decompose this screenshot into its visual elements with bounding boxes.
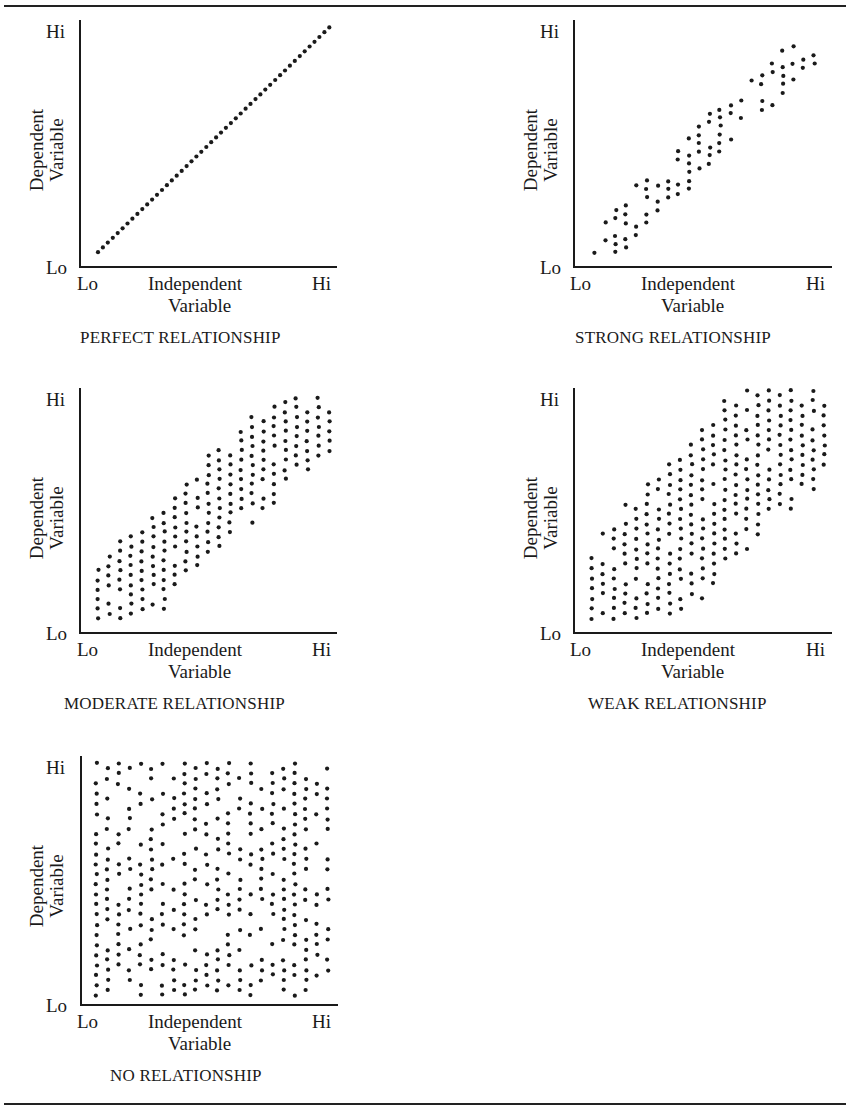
data-point <box>216 847 220 851</box>
data-point <box>238 878 242 882</box>
data-point <box>173 534 177 538</box>
data-point <box>778 502 782 506</box>
data-point <box>734 483 738 487</box>
data-point <box>217 535 221 539</box>
data-point <box>205 530 209 534</box>
data-point <box>634 517 638 521</box>
data-point <box>195 563 199 567</box>
data-point <box>292 802 296 806</box>
data-point <box>249 832 253 836</box>
x-axis-label-line1: Independent <box>148 640 242 659</box>
data-point <box>590 586 594 590</box>
data-point <box>105 867 109 871</box>
data-point <box>150 928 154 932</box>
data-point <box>314 903 318 907</box>
data-point <box>250 521 254 525</box>
data-point <box>304 777 308 781</box>
data-point <box>697 166 701 170</box>
data-point <box>216 837 220 841</box>
data-point <box>228 473 232 477</box>
data-point <box>129 592 133 596</box>
data-point <box>293 994 297 998</box>
data-point <box>723 438 727 442</box>
data-point <box>298 54 302 58</box>
data-point <box>722 508 726 512</box>
data-point <box>162 540 166 544</box>
data-point <box>261 497 265 501</box>
data-point <box>701 547 705 551</box>
data-point <box>248 933 252 937</box>
data-point <box>745 408 749 412</box>
data-point <box>128 766 132 770</box>
data-point <box>106 602 110 606</box>
data-point <box>788 468 792 472</box>
data-point <box>603 238 607 242</box>
data-point <box>96 568 100 572</box>
data-point <box>689 443 693 447</box>
data-point <box>193 868 197 872</box>
data-point <box>744 428 748 432</box>
data-point <box>700 478 704 482</box>
data-point <box>216 817 220 821</box>
plot-area <box>423 0 846 360</box>
data-point <box>304 988 308 992</box>
y-tick-lo: Lo <box>540 624 561 643</box>
data-point <box>150 867 154 871</box>
data-point <box>172 988 176 992</box>
data-point <box>657 477 661 481</box>
data-point <box>678 458 682 462</box>
data-point <box>175 174 179 178</box>
data-point <box>766 488 770 492</box>
data-point <box>140 597 144 601</box>
data-point <box>293 59 297 63</box>
data-point <box>151 534 155 538</box>
data-point <box>261 467 265 471</box>
data-point <box>161 923 165 927</box>
data-point <box>196 505 200 509</box>
panel-title: NO RELATIONSHIP <box>110 1066 262 1086</box>
x-tick-hi: Hi <box>312 640 331 659</box>
data-point <box>745 497 749 501</box>
data-point <box>801 443 805 447</box>
data-point <box>214 135 218 139</box>
data-point <box>723 537 727 541</box>
data-point <box>646 602 650 606</box>
data-point <box>183 492 187 496</box>
data-point <box>779 453 783 457</box>
data-point <box>139 983 143 987</box>
data-point <box>94 994 98 998</box>
data-point <box>94 853 98 857</box>
data-point <box>690 581 694 585</box>
data-point <box>711 581 715 585</box>
data-point <box>216 797 220 801</box>
data-point <box>105 777 109 781</box>
data-point <box>163 597 167 601</box>
data-point <box>634 577 638 581</box>
data-point <box>760 73 764 77</box>
data-point <box>634 616 638 620</box>
data-point <box>810 427 814 431</box>
data-point <box>734 472 738 476</box>
data-point <box>161 587 165 591</box>
data-point <box>204 973 208 977</box>
data-point <box>679 577 683 581</box>
data-point <box>206 550 210 554</box>
data-point <box>127 857 131 861</box>
data-point <box>172 776 176 780</box>
data-point <box>282 908 286 912</box>
data-point <box>204 145 208 149</box>
data-point <box>151 564 155 568</box>
data-point <box>284 448 288 452</box>
data-point <box>612 596 616 600</box>
data-point <box>687 136 691 140</box>
data-point <box>162 578 166 582</box>
data-point <box>708 153 712 157</box>
data-point <box>204 963 208 967</box>
data-point <box>700 437 704 441</box>
data-point <box>601 582 605 586</box>
data-point <box>303 797 307 801</box>
data-point <box>734 493 738 497</box>
data-point <box>314 933 318 937</box>
data-point <box>789 507 793 511</box>
data-point <box>756 443 760 447</box>
